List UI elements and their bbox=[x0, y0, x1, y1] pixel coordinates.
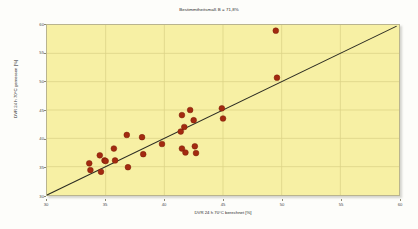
x-axis-tickmark bbox=[223, 199, 224, 201]
data-point bbox=[181, 124, 187, 130]
x-axis-tick-label: 55 bbox=[331, 202, 351, 207]
data-point bbox=[97, 152, 103, 158]
x-axis-tickmark bbox=[282, 199, 283, 201]
data-point bbox=[125, 164, 131, 170]
y-axis-tick-label: 40 bbox=[28, 136, 44, 141]
x-axis-tickmark bbox=[105, 199, 106, 201]
y-axis-tick-label: 50 bbox=[28, 79, 44, 84]
data-point bbox=[187, 107, 193, 113]
data-point bbox=[179, 112, 185, 118]
data-point bbox=[124, 132, 130, 138]
x-axis-tickmark bbox=[400, 199, 401, 201]
data-point bbox=[220, 116, 226, 122]
data-point bbox=[193, 150, 199, 156]
y-axis-tick-label: 45 bbox=[28, 108, 44, 113]
x-axis-tick-label: 45 bbox=[213, 202, 233, 207]
data-point bbox=[274, 75, 280, 81]
data-point bbox=[86, 160, 92, 166]
data-point bbox=[192, 143, 198, 149]
data-point bbox=[183, 150, 189, 156]
y-axis-tick-label: 30 bbox=[28, 194, 44, 199]
x-axis-tick-label: 50 bbox=[272, 202, 292, 207]
y-axis-tickmark bbox=[44, 196, 46, 197]
data-point bbox=[191, 117, 197, 123]
plot-area bbox=[46, 24, 400, 196]
data-point bbox=[219, 105, 225, 111]
data-point bbox=[273, 28, 279, 34]
data-point bbox=[98, 169, 104, 175]
x-axis-tick-label: 60 bbox=[390, 202, 410, 207]
y-axis-tick-labels: 30354045505560 bbox=[26, 24, 44, 196]
x-axis-tick-labels: 30354045505560 bbox=[46, 199, 400, 207]
x-axis-title: DVR 24 h 70°C berechnet [%] bbox=[46, 210, 400, 216]
data-point bbox=[103, 158, 109, 164]
x-axis-tick-label: 35 bbox=[95, 202, 115, 207]
y-axis-tick-label: 35 bbox=[28, 165, 44, 170]
data-point bbox=[112, 158, 118, 164]
data-point bbox=[111, 146, 117, 152]
x-axis-tick-label: 40 bbox=[154, 202, 174, 207]
y-axis-tick-label: 60 bbox=[28, 22, 44, 27]
data-point bbox=[159, 141, 165, 147]
chart-figure: Bestimmtheitsmaß B = 71,8% DVR 24 h 70°C… bbox=[0, 0, 418, 229]
data-point bbox=[88, 167, 94, 173]
data-point bbox=[140, 151, 146, 157]
x-axis-tick-label: 30 bbox=[36, 202, 56, 207]
scatter-series bbox=[47, 25, 399, 195]
x-axis-tickmark bbox=[164, 199, 165, 201]
y-axis-title: DVR 24 h 70°C gemessen [%] bbox=[13, 29, 19, 149]
x-axis-tickmark bbox=[46, 199, 47, 201]
y-axis-tick-label: 55 bbox=[28, 50, 44, 55]
x-axis-tickmark bbox=[341, 199, 342, 201]
chart-title: Bestimmtheitsmaß B = 71,8% bbox=[0, 7, 418, 13]
data-point bbox=[139, 134, 145, 140]
